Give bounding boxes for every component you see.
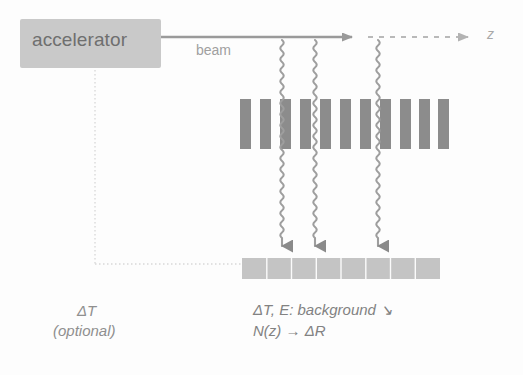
grating-bars	[240, 99, 449, 149]
ray-wave-3	[376, 40, 379, 246]
detector	[242, 258, 440, 279]
annotation-line-2: N(z) → ΔR	[253, 322, 326, 339]
accelerator-label: accelerator	[32, 29, 127, 51]
optional-label: (optional)	[53, 322, 116, 339]
delta-t-label: ΔT	[77, 302, 96, 319]
z-axis-label: z	[487, 26, 494, 42]
beam-label: beam	[196, 42, 231, 58]
diagram-canvas: accelerator beam z ΔT (optional) ΔT, E: …	[0, 0, 523, 375]
optional-path	[95, 70, 242, 264]
ray-wave-2	[313, 40, 316, 246]
annotation-line-1: ΔT, E: background ↘	[253, 301, 393, 319]
